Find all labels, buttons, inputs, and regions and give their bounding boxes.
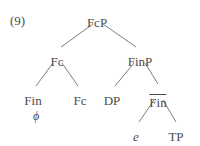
tree-node-fin1: Fin [24,94,41,107]
tree-node-label-finbar: Fin [149,94,166,109]
tree-node-finp: FinP [128,55,153,68]
tree-branch-root-to-finp [103,24,136,47]
tree-node-root: FcP [87,16,107,29]
annotation-phi-under-fin: ϕ [33,110,39,122]
syntax-tree-figure: (9) FcPFcFinPFinFcDPFineTPϕ [0,0,200,146]
tree-node-label-finp: FinP [128,54,153,69]
tree-node-label-fc1: Fc [51,54,64,69]
tree-node-e: e [133,130,139,143]
tree-node-label-e: e [133,129,139,144]
tree-node-label-dp: DP [104,93,121,108]
tree-node-fc2: Fc [74,94,87,107]
tree-node-label-tp: TP [168,129,183,144]
tree-node-label-fin1: Fin [24,93,41,108]
tree-node-finbar: Fin [149,94,166,109]
tree-node-label-fc2: Fc [74,93,87,108]
tree-node-dp: DP [104,94,121,107]
tree-node-fc1: Fc [51,55,64,68]
tree-node-label-root: FcP [87,15,107,30]
tree-branch-fc1-to-fc2 [62,63,78,86]
tree-node-tp: TP [168,130,183,143]
